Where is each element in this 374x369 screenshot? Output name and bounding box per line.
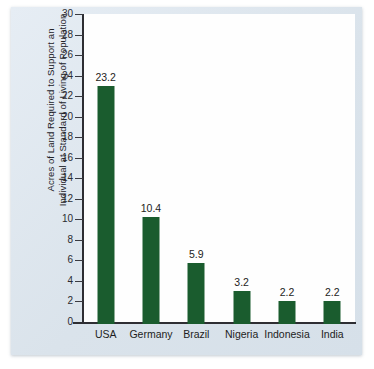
bar-value-label-nigeria: 3.2 <box>234 277 249 288</box>
y-tick-mark <box>75 76 83 77</box>
y-tick-mark <box>75 240 83 241</box>
y-tick-mark <box>75 260 83 261</box>
y-tick-mark <box>75 219 83 220</box>
bar-value-label-germany: 10.4 <box>141 203 161 214</box>
bar-series: 23.210.45.93.22.22.2 <box>83 14 355 324</box>
y-axis-title: Acres of Land Required to Support an Ind… <box>42 0 72 234</box>
bar-value-label-indonesia: 2.2 <box>280 287 295 298</box>
bar-india[interactable] <box>324 301 341 324</box>
bar-group-india[interactable]: 2.2 <box>310 14 355 324</box>
chart-panel: 024681012141618202224262830 Acres of Lan… <box>11 7 362 355</box>
y-tick-mark <box>75 199 83 200</box>
y-axis-title-line-1: Acres of Land Required to Support an <box>45 28 57 191</box>
y-axis-title-line-2: Individual at Standard of Living of Popu… <box>57 14 69 207</box>
bar-nigeria[interactable] <box>233 291 250 324</box>
y-tick-mark <box>75 96 83 97</box>
y-tick-mark <box>75 137 83 138</box>
y-tick-label: 2 <box>51 296 73 306</box>
y-tick-mark <box>75 35 83 36</box>
y-tick-mark <box>75 55 83 56</box>
bar-indonesia[interactable] <box>278 301 295 324</box>
bar-value-label-india: 2.2 <box>325 287 340 298</box>
bar-group-usa[interactable]: 23.2 <box>83 14 128 324</box>
y-tick-label: 6 <box>51 255 73 265</box>
y-tick-2: 2 <box>11 296 83 306</box>
bar-value-label-brazil: 5.9 <box>189 249 204 260</box>
y-tick-mark <box>75 301 83 302</box>
bar-group-nigeria[interactable]: 3.2 <box>219 14 264 324</box>
x-axis-label-india: India <box>301 328 363 341</box>
y-tick-mark <box>75 117 83 118</box>
y-tick-label: 0 <box>51 317 73 327</box>
y-tick-label: 8 <box>51 235 73 245</box>
y-tick-mark <box>75 14 83 15</box>
bar-germany[interactable] <box>142 217 159 324</box>
y-tick-mark <box>75 158 83 159</box>
y-tick-4: 4 <box>11 276 83 286</box>
bar-usa[interactable] <box>97 86 114 324</box>
chart-figure: 024681012141618202224262830 Acres of Lan… <box>0 0 374 369</box>
x-axis-category-labels: USAGermanyBrazilNigeriaIndonesiaIndia <box>83 328 355 348</box>
y-tick-mark <box>75 281 83 282</box>
y-tick-0: 0 <box>11 317 83 327</box>
bar-group-brazil[interactable]: 5.9 <box>174 14 219 324</box>
bar-brazil[interactable] <box>188 263 205 324</box>
bar-value-label-usa: 23.2 <box>95 72 115 83</box>
bar-group-germany[interactable]: 10.4 <box>128 14 173 324</box>
y-tick-6: 6 <box>11 255 83 265</box>
y-tick-mark <box>75 178 83 179</box>
bar-group-indonesia[interactable]: 2.2 <box>264 14 309 324</box>
y-tick-label: 4 <box>51 276 73 286</box>
y-tick-8: 8 <box>11 235 83 245</box>
